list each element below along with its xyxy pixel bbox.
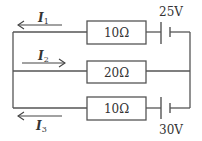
current-subscript: 2 [44,55,49,64]
current-label-i1: I1 [37,11,49,26]
current-label-i2: I2 [37,49,49,64]
current-subscript: 3 [42,125,47,134]
bottom-branch: 10Ω 30V I3 [13,97,190,137]
top-battery-label: 25V [159,5,183,19]
circuit-diagram: 10Ω 25V I1 20Ω I2 [0,0,202,141]
top-branch: 10Ω 25V I1 [13,5,190,44]
current-label-i3: I3 [35,119,47,134]
circuit-svg: 10Ω 25V I1 20Ω I2 [0,0,202,141]
bottom-battery-label: 30V [159,123,183,137]
middle-resistor-label: 20Ω [104,66,129,80]
current-subscript: 1 [44,17,49,26]
top-resistor-label: 10Ω [104,26,129,40]
bottom-resistor-label: 10Ω [104,102,129,116]
middle-branch: 20Ω I2 [13,49,190,83]
